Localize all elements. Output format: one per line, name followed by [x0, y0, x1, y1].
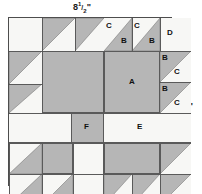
block-grid: E C B C B D A B C B C [8, 17, 172, 186]
triangle-b-dark [160, 174, 191, 194]
triangle-b-dark [9, 143, 42, 174]
triangle-b-dark [160, 143, 191, 174]
label-a-top-right: A [129, 78, 135, 86]
piece-d-corner-top-right [160, 18, 191, 51]
label-c-tr-3: C [174, 68, 180, 76]
piece-a-bottom-left-fix [42, 143, 73, 174]
label-c-tr-2: C [134, 22, 140, 30]
grid-line-v4 [42, 174, 43, 194]
grid-line-v1 [42, 18, 43, 51]
hst-bl-left-2 [9, 174, 42, 194]
grid-line-h2r [160, 82, 191, 83]
hst-tl-left-a [9, 51, 42, 84]
grid-line-v8 [160, 143, 161, 194]
hst-tl-top-b [75, 18, 104, 51]
hst-bl-bottom-1 [42, 174, 73, 194]
triangle-b-dark [132, 174, 160, 194]
label-b-tr-4: B [162, 85, 168, 93]
grid-line-h5 [9, 113, 191, 114]
grid-line-v7 [42, 143, 43, 174]
piece-a-bottom-right-square [104, 143, 160, 174]
grid-line-v6 [9, 143, 10, 194]
grid-line-h1r [160, 51, 191, 52]
label-b-tr-2: B [149, 37, 155, 45]
grid-line-h3 [9, 174, 191, 175]
grid-line-v3 [132, 18, 133, 51]
dimension-top-unit: " [87, 2, 91, 12]
label-b-tr-1: B [121, 37, 127, 45]
grid-line-h1 [9, 51, 104, 52]
quilt-block-diagram: 81/2" 81/2" [0, 0, 202, 194]
hst-br-right-2 [160, 174, 191, 194]
label-d-top-right: D [167, 29, 173, 37]
triangle-b-dark [42, 18, 75, 51]
grid-line-h2l [9, 84, 42, 85]
label-b-tr-3: B [162, 54, 168, 62]
hst-br-right-1 [160, 143, 191, 174]
label-e-horizontal-right: E [137, 123, 142, 131]
label-c-tr-1: C [106, 22, 112, 30]
grid-line-v2 [75, 18, 76, 51]
piece-e-horizontal-left [9, 113, 71, 143]
grid-line-h4 [9, 143, 191, 144]
piece-e-vertical-bottom-overlay [73, 143, 104, 194]
hst-tl-top-a [42, 18, 75, 51]
label-f-center: F [84, 123, 89, 131]
triangle-b-dark [104, 174, 132, 194]
hst-br-bottom-2 [132, 174, 160, 194]
hst-br-bottom-1 [104, 174, 132, 194]
triangle-b-dark [42, 174, 73, 194]
piece-d-corner-top-left [9, 18, 42, 51]
grid-line-v5 [132, 174, 133, 194]
hst-tl-left-b [9, 84, 42, 113]
piece-a-top-left-square [42, 51, 104, 113]
triangle-b-dark [75, 18, 104, 51]
dimension-label-top: 81/2" [73, 2, 91, 12]
piece-e-horizontal-right [104, 113, 191, 143]
triangle-b-dark [9, 174, 42, 194]
label-c-tr-4: C [174, 99, 180, 107]
hst-bl-left-1 [9, 143, 42, 174]
triangle-b-dark [9, 51, 42, 84]
triangle-b-dark [9, 84, 42, 113]
